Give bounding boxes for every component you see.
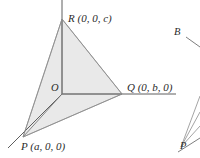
- fragment-B-leader-line: [186, 37, 200, 47]
- fragment-label-P: P: [180, 141, 186, 152]
- vertex-label-P: P (a, 0, 0): [21, 141, 65, 152]
- triangle-PQR-face: [23, 19, 122, 137]
- figure-canvas: R (0, 0, c) Q (0, b, 0) P (a, 0, 0) O B …: [0, 0, 200, 158]
- fragment-label-B: B: [174, 27, 180, 38]
- vertex-label-R: R (0, 0, c): [68, 13, 112, 24]
- adjacent-figure-fragment: [178, 37, 200, 152]
- origin-label-O: O: [51, 83, 59, 94]
- vertex-label-Q: Q (0, b, 0): [127, 82, 173, 93]
